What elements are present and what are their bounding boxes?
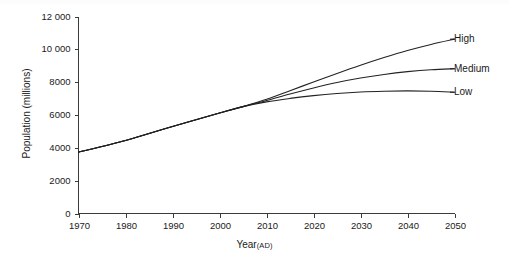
y-axis-title: Population (millions): [21, 39, 32, 189]
x-tick-label: 1980: [102, 221, 152, 231]
population-projection-chart: 0200040006000800010 00012 000 1970198019…: [0, 0, 509, 260]
series-line-high: [79, 39, 455, 152]
series-label-high: High: [454, 33, 475, 44]
x-axis-title: Year(AD): [0, 239, 509, 250]
chart-axes: [79, 17, 455, 214]
x-tick-label: 2050: [431, 221, 481, 231]
series-line-medium: [79, 69, 455, 152]
x-tick-label: 2020: [290, 221, 340, 231]
x-tick-marks: [80, 214, 456, 218]
y-tick-label: 12 000: [18, 12, 71, 22]
series-label-medium: Medium: [454, 63, 490, 74]
x-tick-label: 2030: [337, 221, 387, 231]
y-tick-marks: [75, 18, 79, 215]
series-paths: [79, 39, 455, 152]
x-axis-title-unit: (AD): [257, 241, 273, 250]
x-tick-label: 2010: [243, 221, 293, 231]
y-tick-label: 0: [18, 209, 71, 219]
x-tick-label: 2040: [384, 221, 434, 231]
x-tick-label: 1990: [149, 221, 199, 231]
x-tick-label: 1970: [55, 221, 105, 231]
x-axis-title-text: Year: [236, 239, 256, 250]
x-tick-label: 2000: [196, 221, 246, 231]
series-label-low: Low: [454, 86, 472, 97]
